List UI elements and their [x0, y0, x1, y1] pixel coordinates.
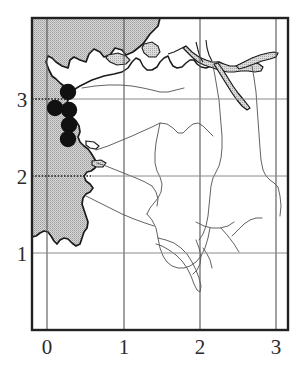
data-point[interactable] — [60, 84, 76, 100]
x-tick-label: 0 — [42, 335, 53, 359]
map-figure-root: 0 1 2 3 3 2 1 — [0, 0, 304, 370]
data-point[interactable] — [61, 102, 77, 118]
distribution-map-figure: 0 1 2 3 3 2 1 — [0, 0, 304, 370]
x-tick-label: 3 — [271, 335, 282, 359]
data-point[interactable] — [47, 100, 63, 116]
y-tick-label: 3 — [17, 88, 28, 112]
data-point[interactable] — [61, 117, 77, 133]
data-point[interactable] — [60, 131, 76, 147]
y-tick-labels: 3 2 1 — [17, 88, 28, 266]
x-tick-labels: 0 1 2 3 — [42, 335, 282, 359]
x-tick-label: 2 — [195, 335, 206, 359]
y-tick-label: 1 — [17, 242, 28, 266]
x-tick-label: 1 — [119, 335, 130, 359]
map-canvas: 0 1 2 3 3 2 1 — [0, 0, 304, 370]
y-tick-label: 2 — [17, 165, 28, 189]
